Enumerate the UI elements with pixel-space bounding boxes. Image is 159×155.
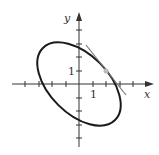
y-axis-arrow-icon: [76, 12, 82, 21]
x-axis-label: x: [144, 88, 151, 101]
y-axis: [76, 18, 82, 147]
plot: y x 1 1: [0, 0, 159, 155]
tangent-point: [104, 69, 109, 74]
x-axis: [12, 81, 148, 87]
x-tick-label: 1: [90, 88, 97, 101]
ellipse-diagram: y x 1 1: [0, 0, 159, 155]
y-tick-label: 1: [68, 65, 75, 78]
x-axis-arrow-icon: [145, 81, 154, 87]
y-axis-label: y: [63, 12, 71, 25]
